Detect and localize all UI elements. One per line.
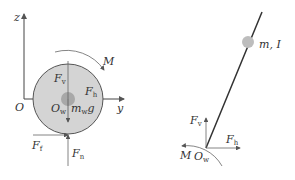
fv-label: Fv	[54, 73, 66, 86]
right-fv-label: Fv	[190, 115, 202, 128]
normal-label: Fn	[72, 148, 84, 161]
point-mass	[242, 36, 254, 48]
right-moment-label: M	[180, 150, 191, 161]
friction-label: Ff	[32, 140, 42, 153]
wheel-center-label: Ow	[51, 103, 66, 116]
moment-label: M	[103, 56, 114, 67]
mass-label: m, I	[259, 39, 281, 50]
diagram-canvas	[0, 0, 295, 180]
origin-label: O	[15, 102, 24, 113]
weight-label: mwg	[71, 103, 94, 116]
z-axis-label: z	[14, 12, 20, 23]
pivot-label: Ow	[194, 151, 209, 164]
rod	[206, 12, 262, 148]
fh-label: Fh	[85, 86, 97, 99]
right-fh-label: Fh	[226, 134, 238, 147]
y-axis-label: y	[117, 103, 123, 114]
